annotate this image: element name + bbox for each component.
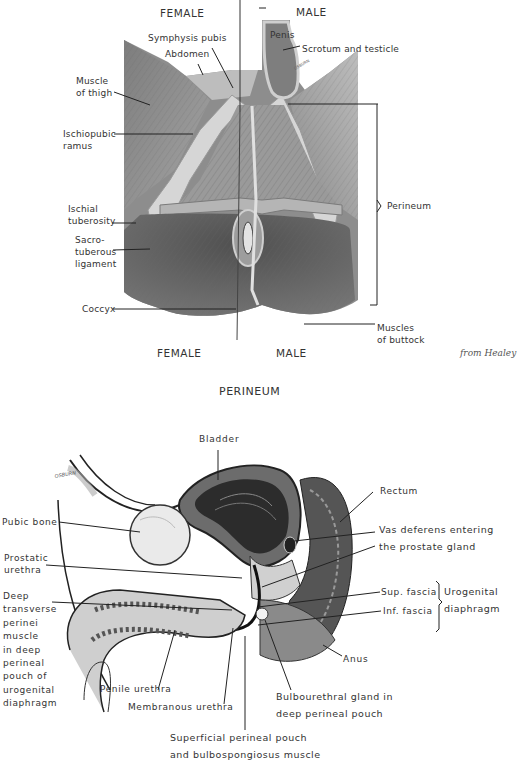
label-pubic-bone: Pubic bone: [2, 516, 57, 528]
figure-title-perineum: PERINEUM: [219, 385, 280, 398]
label-penile-urethra: Penile urethra: [100, 683, 171, 695]
label-abdomen: Abdomen: [165, 48, 210, 60]
label-bladder: Bladder: [199, 433, 239, 445]
label-penis: Penis: [270, 29, 295, 41]
label-superficial-perineal-pouch: Superficial perineal pouch and bulbospon…: [170, 729, 321, 763]
label-perineum: Perineum: [387, 200, 431, 212]
label-vas-deferens: Vas deferens entering the prostate gland: [379, 521, 494, 555]
credit-from-healey: from Healey: [460, 348, 516, 358]
label-scrotum-and-testicle: Scrotum and testicle: [302, 43, 399, 55]
female-header-bottom: FEMALE: [157, 347, 201, 359]
label-ischial-tuberosity: Ischial tuberosity: [68, 203, 116, 227]
label-coccyx: Coccyx: [82, 303, 116, 315]
label-sacrotuberous-ligament: Sacro- tuberous ligament: [75, 234, 117, 270]
label-sup-fascia: Sup. fascia: [381, 586, 437, 598]
svg-text:OSBURN: OSBURN: [54, 469, 76, 479]
label-membranous-urethra: Membranous urethra: [128, 701, 233, 713]
label-bulbourethral-gland: Bulbourethral gland in deep perineal pou…: [276, 688, 393, 722]
label-symphysis-pubis: Symphysis pubis: [148, 32, 227, 44]
label-prostatic-urethra: Prostatic urethra: [4, 552, 48, 576]
label-rectum: Rectum: [380, 485, 418, 497]
label-muscles-of-buttock: Muscles of buttock: [377, 322, 425, 346]
label-inf-fascia: Inf. fascia: [383, 605, 433, 617]
label-ischiopubic-ramus: Ischiopubic ramus: [63, 128, 116, 152]
label-deep-transverse-perinei: Deep transverse perinei muscle in deep p…: [3, 590, 57, 711]
male-header-top: MALE: [296, 6, 327, 18]
label-anus: Anus: [343, 653, 368, 665]
male-header-bottom: MALE: [276, 347, 307, 359]
female-header-top: FEMALE: [160, 7, 204, 19]
label-muscle-of-thigh: Muscle of thigh: [76, 75, 112, 99]
label-urogenital-diaphragm: Urogenital diaphragm: [444, 583, 500, 617]
